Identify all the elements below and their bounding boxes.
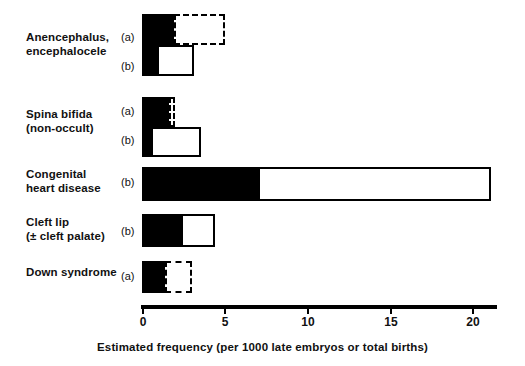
- category-label-anencephalus: Anencephalus, encephalocele: [26, 31, 130, 58]
- category-label-congenital-heart-disease: Congenital heart disease: [26, 168, 130, 195]
- sub-row-label-down-syndrome-a: (a): [121, 270, 134, 282]
- bar-segment-solid: [142, 97, 170, 127]
- category-label-cleft-lip: Cleft lip (± cleft palate): [26, 216, 134, 243]
- sub-row-label-spina-bifida-b: (b): [121, 134, 134, 146]
- bar-segment-solid: [142, 167, 259, 201]
- bar-spina-bifida-b: [142, 127, 201, 157]
- bar-segment-solid: [142, 214, 182, 247]
- x-axis-tick-0: [142, 309, 144, 314]
- x-axis-tick-label-10: 10: [301, 315, 314, 329]
- bar-segment-open: [181, 214, 215, 247]
- x-axis-tick-label-15: 15: [384, 315, 397, 329]
- x-axis-tick-label-5: 5: [222, 315, 229, 329]
- x-axis-tick-20: [472, 309, 474, 314]
- sub-row-label-congenital-heart-disease-b: (b): [121, 176, 134, 188]
- bar-segment-open: [258, 167, 491, 201]
- bar-segment-open: [157, 45, 194, 76]
- bar-segment-open: [151, 127, 201, 157]
- x-axis-tick-15: [390, 309, 392, 314]
- bar-spina-bifida-a: [142, 97, 175, 127]
- sub-row-label-anencephalus-b: (b): [121, 60, 134, 72]
- bar-segment-solid: [142, 14, 175, 45]
- bar-segment-dashed: [165, 261, 192, 293]
- horizontal-bar-chart: Anencephalus, encephalocele Spina bifida…: [0, 0, 525, 366]
- bar-anencephalus-a: [142, 14, 225, 45]
- sub-row-label-cleft-lip-b: (b): [121, 225, 134, 237]
- bar-segment-dashed: [169, 97, 175, 127]
- bar-anencephalus-b: [142, 45, 194, 76]
- bar-segment-solid: [142, 261, 166, 293]
- x-axis-tick-label-0: 0: [140, 315, 147, 329]
- category-label-spina-bifida: Spina bifida (non-occult): [26, 108, 130, 135]
- x-axis-tick-5: [224, 309, 226, 314]
- bar-segment-dashed: [174, 14, 225, 45]
- x-axis-line: [141, 305, 497, 309]
- bar-cleft-lip-b: [142, 214, 215, 247]
- category-label-down-syndrome: Down syndrome: [26, 266, 134, 280]
- bar-congenital-heart-disease-b: [142, 167, 491, 201]
- x-axis-title: Estimated frequency (per 1000 late embry…: [0, 341, 525, 353]
- sub-row-label-anencephalus-a: (a): [121, 31, 134, 43]
- bar-segment-solid: [142, 45, 158, 76]
- sub-row-label-spina-bifida-a: (a): [121, 105, 134, 117]
- bar-down-syndrome-a: [142, 261, 192, 293]
- x-axis-tick-label-20: 20: [466, 315, 479, 329]
- x-axis-tick-10: [307, 309, 309, 314]
